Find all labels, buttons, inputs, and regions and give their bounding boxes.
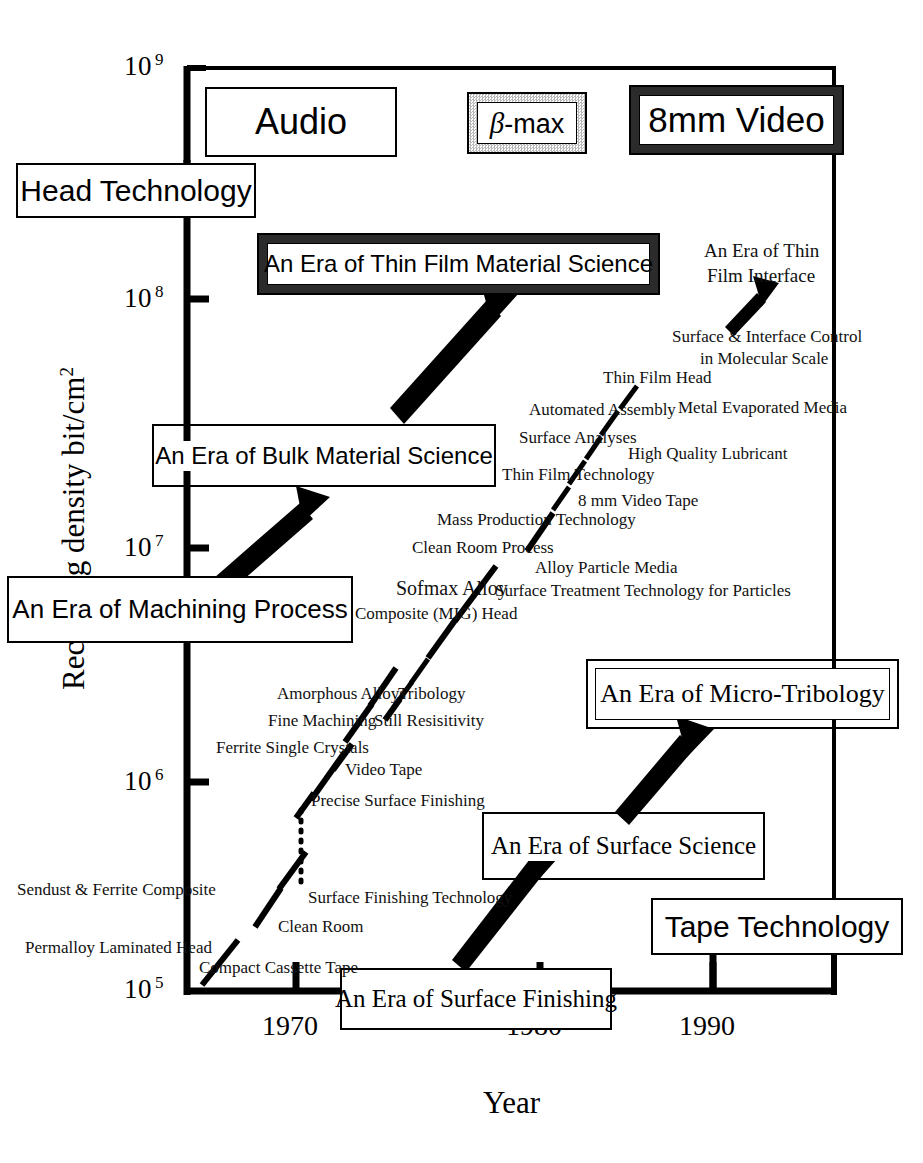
era-box-surface-finishing[interactable]: An Era of Surface Finishing (340, 968, 612, 1030)
annotation-amorphous-alloys: Amorphous Alloys (277, 684, 406, 704)
annotation-compact-cassette-tape: Compact Cassette Tape (199, 958, 358, 978)
annotation-surface-analyses: Surface Analyses (519, 428, 637, 448)
annotation-alloy-particle-media: Alloy Particle Media (535, 558, 678, 578)
video8mm-inner: 8mm Video (639, 95, 834, 145)
era-box-bulk-material-science[interactable]: An Era of Bulk Material Science (152, 424, 496, 487)
category-box-tape-technology[interactable]: Tape Technology (651, 898, 903, 955)
chart-canvas: Recording density bit/cm2 Year 109 108 1… (0, 0, 923, 1163)
annotation-thin-film-interface-line2: Film Interface (707, 265, 815, 287)
annotation-thin-film-head: Thin Film Head (603, 368, 712, 388)
video8mm-label: 8mm Video (648, 100, 824, 140)
y-tick-label-7: 107 (124, 531, 164, 563)
beta-symbol: β (490, 107, 504, 139)
annotation-mass-production-technology: Mass Production Technology (437, 510, 636, 530)
micro-tribology-label: An Era of Micro-Tribology (600, 679, 884, 709)
x-tick-label-1990: 1990 (679, 1010, 735, 1042)
machining-process-label: An Era of Machining Process (12, 594, 347, 625)
annotation-thin-film-interface-line1: An Era of Thin (704, 240, 819, 262)
annotation-precise-surface-finishing: Precise Surface Finishing (311, 791, 485, 811)
annotation-surface-interface-line2: in Molecular Scale (700, 349, 828, 369)
surface-finishing-label: An Era of Surface Finishing (335, 985, 617, 1013)
annotation-surface-interface-line1: Surface & Interface Control (672, 327, 862, 347)
annotation-video-tape: Video Tape (345, 760, 422, 780)
thin-film-material-science-inner: An Era of Thin Film Material Science (267, 243, 650, 285)
era-box-machining-process[interactable]: An Era of Machining Process (7, 576, 353, 643)
arrow-surface-to-microtribology (615, 716, 714, 825)
era-box-thin-film-material-science[interactable]: An Era of Thin Film Material Science (257, 233, 660, 295)
annotation-surface-treatment: Surface Treatment Technology for Particl… (495, 581, 791, 601)
beta-max-suffix: -max (504, 109, 564, 139)
annotation-high-quality-lubricant: High Quality Lubricant (628, 444, 788, 464)
category-box-beta-max[interactable]: β-max (467, 92, 587, 154)
bulk-material-science-inner: An Era of Bulk Material Science (157, 441, 491, 471)
surface-science-inner: An Era of Surface Science (487, 831, 760, 861)
category-box-audio[interactable]: Audio (205, 87, 397, 157)
y-tick-label-5: 105 (124, 973, 164, 1005)
annotation-ferrite-single-crystals: Ferrite Single Crystals (216, 738, 369, 758)
x-tick-label-1970: 1970 (262, 1010, 318, 1042)
annotation-metal-evaporated-media: Metal Evaporated Media (678, 398, 847, 418)
y-tick-label-9: 109 (124, 50, 164, 82)
thin-film-material-science-label: An Era of Thin Film Material Science (264, 250, 653, 278)
tape-technology-label: Tape Technology (665, 910, 890, 944)
annotation-8mm-video-tape: 8 mm Video Tape (578, 491, 698, 511)
annotation-thin-film-technology: Thin Film Technology (502, 465, 654, 485)
audio-label: Audio (255, 101, 347, 143)
annotation-surface-finishing-technology: Surface Finishing Technology (308, 888, 512, 908)
era-box-micro-tribology[interactable]: An Era of Micro-Tribology (586, 659, 899, 729)
annotation-automated-assembly: Automated Assembly (529, 400, 676, 420)
arrow-bulk-to-thinfilm (390, 281, 519, 424)
annotation-clean-room: Clean Room (278, 917, 363, 937)
annotation-clean-room-process: Clean Room Process (412, 538, 554, 558)
annotation-sofmax-alloy: Sofmax Alloy (396, 577, 508, 600)
surface-science-label: An Era of Surface Science (491, 832, 756, 860)
category-box-head-technology[interactable]: Head Technology (16, 163, 256, 218)
category-box-8mm-video[interactable]: 8mm Video (629, 85, 844, 155)
x-axis-title: Year (483, 1085, 540, 1121)
y-tick-label-6: 106 (124, 765, 164, 797)
y-tick-label-8: 108 (124, 282, 164, 314)
bulk-material-science-label: An Era of Bulk Material Science (155, 442, 493, 470)
head-technology-label: Head Technology (20, 174, 251, 208)
annotation-still-resistivity: Still Resisitivity (374, 711, 484, 731)
annotation-permalloy-laminated-head: Permalloy Laminated Head (25, 938, 212, 958)
annotation-tribology: Tribology (398, 684, 465, 704)
annotation-composite-mig-head: Composite (MIG) Head (355, 604, 517, 624)
annotation-fine-machining: Fine Machining (268, 711, 376, 731)
beta-max-inner: β-max (477, 102, 577, 144)
micro-tribology-inner: An Era of Micro-Tribology (595, 668, 890, 720)
era-box-surface-science[interactable]: An Era of Surface Science (482, 812, 765, 880)
annotation-sendust-ferrite-composite: Sendust & Ferrite Composite (17, 880, 216, 900)
